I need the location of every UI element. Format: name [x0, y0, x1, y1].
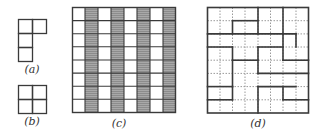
- label-d: (d): [238, 117, 278, 130]
- figure-d: (d): [0, 0, 324, 137]
